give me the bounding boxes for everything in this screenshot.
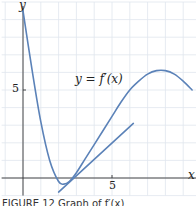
curve-label-f: f′(x) [100,72,123,86]
x-axis-label: x [188,168,195,182]
data-series [23,11,192,192]
curve-label-y: y [75,72,82,86]
curve-label: y = f′(x) [75,72,123,86]
y-axis-label: y [19,0,26,12]
figure-caption: FIGURE 12 Graph of f′(x) [2,198,124,206]
x-tick-label-5: 5 [109,179,116,192]
axes [2,6,196,196]
y-tick-label-5: 5 [12,82,19,95]
chart-canvas [0,0,196,206]
curve-label-eq: = [86,72,96,86]
tangent-line [59,123,134,192]
grid-lines [2,2,196,196]
